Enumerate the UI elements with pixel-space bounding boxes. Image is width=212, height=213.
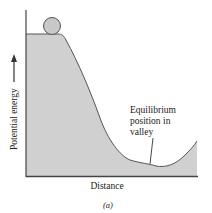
arrow-up-icon	[11, 54, 17, 62]
figure-caption: (a)	[103, 200, 113, 210]
annotation-line-1: Equilibrium	[130, 105, 177, 115]
annotation-pointer	[150, 138, 153, 164]
ball	[44, 18, 61, 35]
annotation-line-2: position in	[130, 116, 171, 126]
annotation-line-3: valley	[130, 127, 153, 137]
potential-energy-diagram: Potential energy Equilibrium position in…	[0, 0, 212, 213]
y-axis-label: Potential energy	[9, 88, 19, 150]
x-axis-label: Distance	[90, 181, 123, 191]
